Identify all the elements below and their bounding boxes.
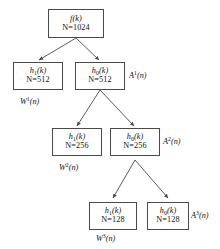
- edge-l1-right-to-l2-right: [100, 90, 134, 126]
- node-l3-right[interactable]: h0(k) N=128: [147, 202, 189, 230]
- label-w2-symbol: W: [59, 163, 66, 172]
- node-l3-left-subscript: 1: [109, 210, 112, 216]
- node-l2-right-subscript: 0: [131, 136, 134, 142]
- node-l1-left-subscript: 1: [34, 70, 37, 76]
- label-a3-arg: (n): [199, 211, 209, 220]
- label-w1-arg: (n): [30, 97, 40, 106]
- node-l1-left-size: N=512: [26, 76, 49, 85]
- label-a1-arg: (n): [137, 71, 147, 80]
- edge-l1-right-to-l2-left: [77, 90, 100, 126]
- node-l2-right-size: N=256: [123, 142, 146, 151]
- node-l1-left[interactable]: h1(k) N=512: [13, 62, 63, 90]
- label-detail-w3: W3(n): [96, 234, 115, 243]
- node-root-size: N=1024: [62, 24, 90, 33]
- label-approximation-a2: A2(n): [163, 137, 180, 146]
- label-detail-w2: W2(n): [59, 163, 78, 172]
- node-l2-left[interactable]: h1(k) N=256: [52, 128, 102, 156]
- node-l3-right-size: N=128: [156, 216, 179, 225]
- node-l2-left-subscript: 1: [73, 136, 76, 142]
- node-l3-left-size: N=128: [101, 216, 124, 225]
- edge-l2-right-to-l3-left: [113, 160, 135, 198]
- label-w3-arg: (n): [106, 234, 116, 243]
- node-l3-left[interactable]: h1(k) N=128: [89, 202, 137, 230]
- label-w3-symbol: W: [96, 234, 103, 243]
- label-approximation-a1: A1(n): [129, 71, 146, 80]
- node-l2-left-size: N=256: [65, 142, 88, 151]
- edge-l2-right-to-l3-right: [135, 160, 168, 198]
- label-a2-superscript: 2: [168, 136, 171, 142]
- edge-root-to-l1-right: [76, 38, 99, 60]
- label-approximation-a3: A3(n): [191, 211, 208, 220]
- node-l1-right-subscript: 0: [96, 70, 99, 76]
- label-w3-superscript: 3: [103, 233, 106, 239]
- node-l3-right-subscript: 0: [164, 210, 167, 216]
- node-root[interactable]: f(k) N=1024: [48, 9, 104, 38]
- label-w2-arg: (n): [69, 163, 79, 172]
- label-w2-superscript: 2: [66, 162, 69, 168]
- label-w1-symbol: W: [20, 97, 27, 106]
- label-a3-superscript: 3: [196, 210, 199, 216]
- decomposition-tree-diagram: f(k) N=1024 h1(k) N=512 h0(k) N=512 h1(k…: [0, 0, 220, 249]
- label-detail-w1: W1(n): [20, 97, 39, 106]
- node-l1-right-size: N=512: [88, 76, 111, 85]
- node-root-arg: (k): [72, 14, 81, 23]
- label-a2-arg: (n): [171, 137, 181, 146]
- node-l1-right[interactable]: h0(k) N=512: [75, 62, 125, 90]
- node-l2-right[interactable]: h0(k) N=256: [110, 128, 160, 156]
- label-a1-superscript: 1: [134, 70, 137, 76]
- label-w1-superscript: 1: [27, 96, 30, 102]
- edge-root-to-l1-left: [39, 38, 76, 60]
